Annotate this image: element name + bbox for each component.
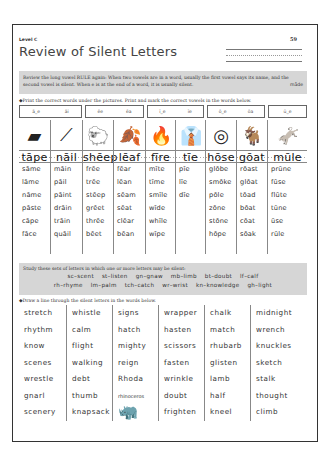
answer-field[interactable]: hōse — [206, 150, 236, 163]
silent-letter-pair: gh–light — [247, 282, 272, 288]
vowel-word: ūse — [268, 215, 307, 228]
vowel-word: wīde — [146, 202, 175, 215]
vowel-word: quāil — [51, 228, 82, 241]
vowel-word: bōat — [237, 202, 267, 215]
silent-word[interactable]: hatch — [118, 322, 158, 339]
silent-word[interactable]: debt — [72, 371, 112, 388]
vowel-word: bēan — [114, 228, 145, 241]
answer-field[interactable]: nāil — [51, 150, 82, 163]
answer-field[interactable]: gōat — [237, 150, 267, 163]
picture-column: 🔥fīremītetīmesmīlewīdewhīlewīpe — [145, 120, 175, 254]
silent-letter-pair: gn–gnaw — [136, 273, 163, 279]
silent-word[interactable]: stretch — [24, 305, 66, 322]
silent-word[interactable]: half — [210, 388, 250, 405]
silent-word[interactable]: flight — [72, 338, 112, 355]
vowel-word: fūse — [268, 176, 307, 189]
silent-word[interactable]: frighten — [164, 404, 204, 421]
answer-field[interactable]: tāpe — [19, 150, 50, 163]
silent-word[interactable]: lamb — [210, 371, 250, 388]
silent-word[interactable]: kneel — [210, 404, 250, 421]
vowel-word: hōpe — [206, 228, 236, 241]
vowel-hint-row: ā_eāiēeēaī_eīeō_eōaū_e — [19, 105, 307, 119]
silent-word[interactable]: know — [24, 338, 66, 355]
vowel-word: fāce — [19, 228, 50, 241]
silent-word[interactable]: knapsack — [72, 404, 112, 421]
vowel-hint-box: ō_eōa — [207, 105, 265, 118]
instruction-part1: ◆Print the correct words under the pictu… — [19, 98, 251, 103]
silent-word[interactable]: whistle — [72, 305, 112, 322]
silent-word[interactable]: scenery — [24, 404, 66, 421]
vowel-word: drāin — [51, 202, 82, 215]
picture-column: 👔tīepīelīedīe — [175, 120, 205, 254]
picture-column: 🫏mūleprūnefūseflūtetūneūserūle — [267, 120, 307, 254]
silent-word[interactable]: hasten — [164, 322, 204, 339]
vowel-hint-box: ēeēa — [85, 105, 144, 118]
silent-word[interactable]: rhubarb — [210, 338, 250, 355]
silent-word[interactable]: scissors — [164, 338, 204, 355]
silent-word[interactable]: calm — [72, 322, 112, 339]
picture-column: 🍂lēaffēarlēansēamsēatclēarbēan — [113, 120, 145, 254]
silent-word[interactable]: knuckles — [256, 338, 307, 355]
vowel-word: glōat — [237, 176, 267, 189]
vowel-word: dīe — [176, 189, 205, 202]
silent-word[interactable]: stalk — [256, 371, 307, 388]
instruction-part2: ◆Draw a line through the silent letters … — [19, 298, 156, 303]
vowel-word: pōle — [206, 189, 236, 202]
answer-field[interactable]: lēaf — [114, 150, 145, 163]
silent-word[interactable]: rhythm — [24, 322, 66, 339]
silent-word[interactable]: wrapper — [164, 305, 204, 322]
silent-letter-pair: wr–wrist — [162, 282, 188, 288]
silent-word[interactable]: reign — [118, 355, 158, 372]
silent-word[interactable]: gnarl — [24, 388, 66, 405]
vowel-word: flūte — [268, 189, 307, 202]
vowel-word: whīle — [146, 215, 175, 228]
vowel-word: tūne — [268, 202, 307, 215]
silent-word[interactable]: walking — [72, 355, 112, 372]
silent-word[interactable]: wrestle — [24, 371, 66, 388]
silent-word[interactable]: mighty — [118, 338, 158, 355]
vowel-word: lāme — [19, 176, 50, 189]
tape-dispenser-icon: ▰ — [19, 120, 50, 150]
silent-word[interactable]: Rhoda — [118, 371, 158, 388]
silent-word[interactable]: scenes — [24, 355, 66, 372]
vowel-word — [176, 202, 205, 215]
name-writing-lines — [226, 49, 302, 62]
hose-icon: ◎ — [206, 120, 236, 150]
vowel-word: glōbe — [206, 163, 236, 176]
silent-word[interactable]: wrinkle — [164, 371, 204, 388]
silent-word[interactable]: wrench — [256, 322, 307, 339]
vowel-word: smōke — [206, 176, 236, 189]
vowel-word: rōast — [237, 163, 267, 176]
page-title: Review of Silent Letters — [19, 44, 177, 59]
vowel-word: tīme — [146, 176, 175, 189]
silent-letter-grid: stretchrhythmknowsceneswrestlegnarlscene… — [19, 305, 307, 421]
vowel-word: bēet — [83, 228, 113, 241]
silent-word[interactable]: doubt — [164, 388, 204, 405]
silent-word-column: stretchrhythmknowsceneswrestlegnarlscene… — [19, 305, 66, 421]
silent-letter-pair: kn–knowledge — [196, 282, 240, 288]
silent-word[interactable]: fasten — [164, 355, 204, 372]
silent-word[interactable]: glisten — [210, 355, 250, 372]
silent-word[interactable]: thought — [256, 388, 307, 405]
fire-icon: 🔥 — [146, 120, 175, 150]
answer-field[interactable]: mūle — [268, 150, 307, 163]
silent-word-column: chalkmatchrhubarbglistenlambhalfkneel — [204, 305, 250, 421]
answer-field[interactable]: fīre — [146, 150, 175, 163]
vowel-hint-box: ī_eīe — [147, 105, 204, 118]
answer-field[interactable]: shēep — [83, 150, 113, 163]
silent-word[interactable]: thumb — [72, 388, 112, 405]
nail-icon: ⟋ — [51, 120, 82, 150]
vowel-word: pāil — [51, 176, 82, 189]
vowel-pattern: ō_e — [219, 109, 227, 114]
page-number: 59 — [290, 36, 297, 42]
vowel-word: wīpe — [146, 228, 175, 241]
study-box: Study these sets of letters in which one… — [19, 263, 307, 295]
silent-word[interactable]: climb — [256, 404, 307, 421]
silent-word[interactable]: chalk — [210, 305, 250, 322]
answer-field[interactable]: tīe — [176, 150, 205, 163]
silent-word[interactable]: sketch — [256, 355, 307, 372]
silent-word[interactable]: signs — [118, 305, 158, 322]
vowel-word: frēe — [83, 163, 113, 176]
silent-word[interactable]: midnight — [256, 305, 307, 322]
silent-word[interactable]: match — [210, 322, 250, 339]
